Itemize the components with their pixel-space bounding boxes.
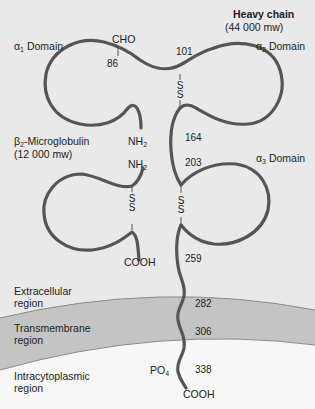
alpha3-domain-chain xyxy=(181,164,269,244)
alpha2-alpha3-linker xyxy=(171,108,181,185)
diagram-graphics xyxy=(0,0,315,409)
residue-259: 259 xyxy=(185,253,202,264)
residue-338: 338 xyxy=(195,364,212,375)
disulfide-alpha3: SS xyxy=(176,196,186,214)
residue-306: 306 xyxy=(195,326,212,337)
beta2-microglobulin-mw: (12 000 mw) xyxy=(14,148,72,160)
extracellular-region-label: Extracellularregion xyxy=(14,285,72,309)
residue-282: 282 xyxy=(195,298,212,309)
residue-203: 203 xyxy=(185,157,202,168)
alpha1-domain-label: α1 Domain xyxy=(14,40,63,52)
residue-101: 101 xyxy=(176,46,193,57)
mhc-diagram: Heavy chain (44 000 mw) α1 Domain α2 Dom… xyxy=(0,0,315,409)
cho-label: CHO xyxy=(112,33,135,45)
residue-86: 86 xyxy=(107,58,118,69)
po4-label: PO4 xyxy=(150,364,169,376)
heavy-chain-mw: (44 000 mw) xyxy=(225,21,283,33)
beta2-microglobulin-chain xyxy=(44,168,143,260)
disulfide-alpha2: SS xyxy=(175,81,185,99)
cooh-beta2-label: COOH xyxy=(124,256,156,268)
nh2-beta2-label: NH2 xyxy=(128,158,147,170)
residue-164: 164 xyxy=(185,132,202,143)
intracytoplasmic-region-label: Intracytoplasmicregion xyxy=(14,370,90,394)
heavy-chain-title: Heavy chain xyxy=(233,8,294,20)
alpha3-domain-label: α3 Domain xyxy=(256,152,305,164)
beta2-microglobulin-label: β2-Microglobulin xyxy=(14,135,89,147)
cooh-tail-label: COOH xyxy=(183,388,215,400)
disulfide-beta2: SS xyxy=(127,194,137,212)
transmembrane-region-label: Transmembraneregion xyxy=(14,322,91,346)
alpha2-domain-label: α2 Domain xyxy=(256,40,305,52)
nh2-heavy-label: NH2 xyxy=(128,135,147,147)
